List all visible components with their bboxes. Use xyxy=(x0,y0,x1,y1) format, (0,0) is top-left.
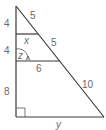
label-hyp-bottom: 10 xyxy=(82,79,94,90)
label-hyp-middle: 5 xyxy=(51,37,57,48)
label-left-middle: 4 xyxy=(4,45,10,56)
label-six: 6 xyxy=(36,63,42,74)
label-left-bottom: 8 xyxy=(4,86,10,97)
label-angle-z: z xyxy=(17,50,23,61)
label-hyp-top: 5 xyxy=(30,10,36,21)
similar-triangles-diagram: 4 4 8 5 5 10 x 6 y z xyxy=(0,0,106,130)
label-left-top: 4 xyxy=(4,18,10,29)
right-angle-marker xyxy=(16,108,25,117)
label-x: x xyxy=(23,35,30,46)
label-y: y xyxy=(55,119,62,130)
